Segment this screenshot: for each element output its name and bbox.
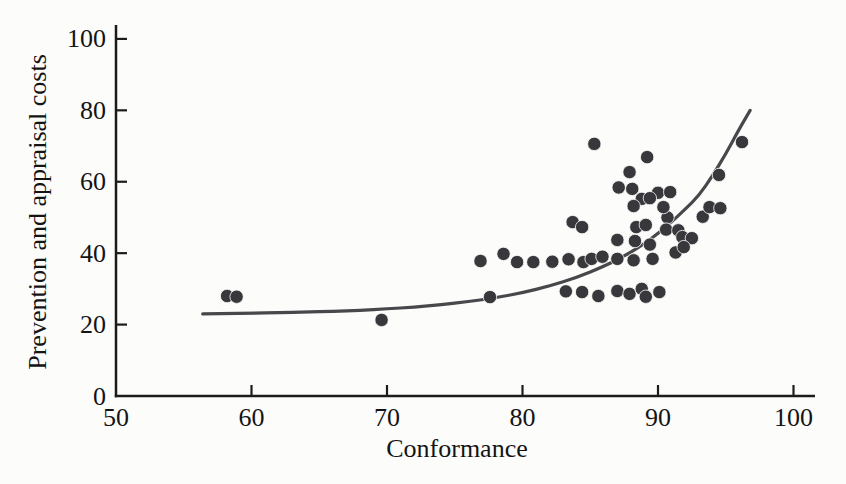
data-point xyxy=(575,220,588,233)
data-point xyxy=(497,247,510,260)
y-tick-label: 40 xyxy=(80,239,106,268)
data-point xyxy=(623,287,636,300)
data-point xyxy=(375,313,388,326)
data-point xyxy=(592,289,605,302)
y-tick-label: 0 xyxy=(93,382,106,411)
data-point xyxy=(657,200,670,213)
data-point xyxy=(640,150,653,163)
data-point xyxy=(611,233,624,246)
data-point xyxy=(611,252,624,265)
scatter-plot-figure: 5060708090100020406080100 Prevention and… xyxy=(0,0,846,484)
x-tick-label: 70 xyxy=(374,403,400,432)
y-tick-label: 60 xyxy=(80,167,106,196)
data-point xyxy=(628,234,641,247)
plot-canvas: 5060708090100020406080100 Prevention and… xyxy=(0,0,846,484)
data-point xyxy=(612,181,625,194)
data-point xyxy=(646,252,659,265)
y-axis-title: Prevention and appraisal costs xyxy=(23,54,52,370)
y-tick-label: 100 xyxy=(67,24,106,53)
y-tick-label: 80 xyxy=(80,96,106,125)
data-point xyxy=(627,254,640,267)
data-point xyxy=(677,240,690,253)
data-point xyxy=(483,290,496,303)
data-point xyxy=(588,137,601,150)
data-point xyxy=(712,168,725,181)
data-point xyxy=(639,218,652,231)
data-point xyxy=(643,238,656,251)
data-point xyxy=(575,285,588,298)
data-point xyxy=(230,290,243,303)
data-point xyxy=(659,223,672,236)
data-point xyxy=(623,165,636,178)
x-axis-title: Conformance xyxy=(386,434,528,463)
x-tick-label: 100 xyxy=(774,403,813,432)
data-point xyxy=(735,135,748,148)
data-point xyxy=(643,191,656,204)
data-point xyxy=(626,182,639,195)
data-point xyxy=(562,253,575,266)
data-point xyxy=(474,254,487,267)
data-point xyxy=(714,201,727,214)
x-tick-label: 60 xyxy=(239,403,265,432)
x-tick-label: 90 xyxy=(645,403,671,432)
data-point xyxy=(611,284,624,297)
data-point xyxy=(596,250,609,263)
data-point xyxy=(546,255,559,268)
data-point xyxy=(663,185,676,198)
data-point xyxy=(559,285,572,298)
data-point xyxy=(653,285,666,298)
data-point xyxy=(527,255,540,268)
y-tick-label: 20 xyxy=(80,310,106,339)
data-point xyxy=(627,199,640,212)
data-point xyxy=(510,255,523,268)
data-point xyxy=(639,290,652,303)
x-tick-label: 50 xyxy=(103,403,129,432)
x-tick-label: 80 xyxy=(510,403,536,432)
plot-generated-layer: 5060708090100020406080100 xyxy=(67,24,815,432)
